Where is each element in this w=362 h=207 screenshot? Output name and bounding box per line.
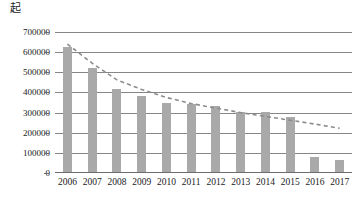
y-axis-tick-mark [44, 32, 49, 33]
x-axis-tick-label-2014: 2014 [256, 177, 275, 187]
x-axis-tick-label-2006: 2006 [58, 177, 77, 187]
x-axis-tick-label-2008: 2008 [107, 177, 126, 187]
x-axis-tick-label-2017: 2017 [330, 177, 349, 187]
x-axis-line [55, 172, 352, 173]
y-axis-title: 起 [10, 2, 21, 16]
y-axis-tick-mark [44, 92, 49, 93]
y-axis-tick-labels: 0100000200000300000400000500000600000700… [0, 32, 50, 173]
y-axis-tick-mark [44, 133, 49, 134]
plot-area [55, 32, 352, 173]
x-axis-tick-label-2016: 2016 [305, 177, 324, 187]
x-axis-tick-label-2015: 2015 [281, 177, 300, 187]
bar-2013 [236, 112, 245, 172]
bar-2012 [211, 106, 220, 172]
x-axis-tick-label-2009: 2009 [132, 177, 151, 187]
x-axis-tick-label-2011: 2011 [182, 177, 201, 187]
trend-line [55, 32, 352, 173]
bar-2009 [137, 96, 146, 172]
x-axis-tick-labels: 2006200720082009201020112012201320142015… [55, 177, 352, 195]
gridline [55, 72, 352, 73]
bar-2017 [335, 160, 344, 172]
y-axis-tick-mark [44, 173, 49, 174]
bar-2016 [310, 157, 319, 172]
y-axis-tick-mark [44, 52, 49, 53]
x-axis-tick-label-2007: 2007 [83, 177, 102, 187]
gridline [55, 52, 352, 53]
gridline [55, 113, 352, 114]
bar-chart: 起 01000002000003000004000005000006000007… [0, 0, 362, 207]
y-axis-tick-mark [44, 153, 49, 154]
y-axis-tick-mark [44, 113, 49, 114]
trend-polyline [67, 44, 339, 128]
gridline [55, 92, 352, 93]
x-axis-tick-label-2010: 2010 [157, 177, 176, 187]
gridline [55, 133, 352, 134]
bar-2007 [88, 68, 97, 172]
x-axis-tick-label-2012: 2012 [206, 177, 225, 187]
gridline [55, 153, 352, 154]
bar-2011 [187, 104, 196, 172]
x-axis-tick-label-2013: 2013 [231, 177, 250, 187]
bar-2010 [162, 103, 171, 172]
gridline [55, 32, 352, 33]
y-axis-tick-mark [44, 72, 49, 73]
bar-2015 [286, 117, 295, 172]
bar-2014 [261, 112, 270, 172]
bar-2006 [63, 47, 72, 172]
bar-2008 [112, 89, 121, 172]
